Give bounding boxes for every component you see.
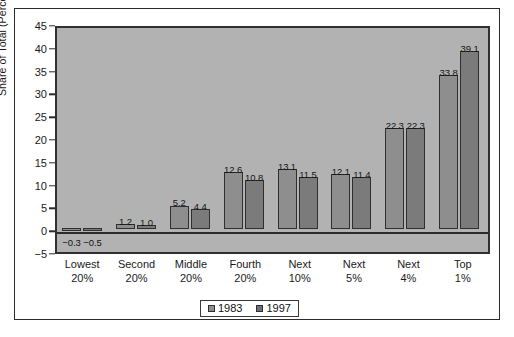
x-tick-label: Next5% [327,258,381,285]
x-tick-label-line: Next [327,258,381,272]
legend-item[interactable]: 1983 [208,302,242,314]
y-tick-label: 35 [3,66,55,78]
bar-1997-next-5- [352,177,371,229]
x-tick-label-line: 20% [218,272,272,286]
legend-label: 1997 [266,302,290,314]
y-tick-label: 10 [3,180,55,192]
x-axis-labels: Lowest20%Second20%Middle20%Fourth20%Next… [55,258,490,285]
bar-group: 33.839.1 [434,28,488,252]
x-tick-label: Middle20% [164,258,218,285]
bar-1997-fourth-20- [245,180,264,229]
x-tick-label: Next4% [381,258,435,285]
bar-1983-next-5- [331,174,350,229]
x-tick-label-line: Next [273,258,327,272]
x-tick-label-line: 20% [164,272,218,286]
x-tick-label-line: 1% [436,272,490,286]
x-tick-label-line: 10% [273,272,327,286]
bar-value-label: 39.1 [455,43,485,54]
x-tick-label-line: Second [109,258,163,272]
y-tick-label: 40 [3,43,55,55]
bar-value-label: 22.3 [401,120,431,131]
bar-1983-lowest-20- [62,228,81,231]
x-tick-label-line: 20% [109,272,163,286]
y-tick-label: 25 [3,111,55,123]
y-tick-label: 45 [3,20,55,32]
y-tick-label: 5 [3,202,55,214]
bar-group: 5.24.4 [165,28,219,252]
x-tick-label-line: Fourth [218,258,272,272]
bar-1983-top-1- [439,75,458,229]
bar-group: 22.322.3 [380,28,434,252]
x-tick-label: Top1% [436,258,490,285]
bar-group: 12.610.8 [219,28,273,252]
x-tick-label-line: Middle [164,258,218,272]
chart-page: Share of Total (Percent) 454035302520151… [0,0,514,337]
bar-1997-middle-20- [191,209,210,229]
bar-group: 12.111.4 [326,28,380,252]
bar-1997-next-10- [299,177,318,229]
x-tick-label-line: Lowest [55,258,109,272]
x-tick-label-line: Top [436,258,490,272]
y-tick-label: 15 [3,157,55,169]
bar-1997-lowest-20- [83,228,102,231]
y-tick-label: 30 [3,88,55,100]
y-tick-label: −5 [3,248,55,260]
bar-value-label: 11.5 [293,169,323,180]
bar-1983-next-4- [385,128,404,230]
y-tick-label: 20 [3,134,55,146]
bar-value-label: −0.5 [78,237,108,248]
chart-legend: 19831997 [200,300,299,317]
bar-group: −0.3−0.5 [57,28,111,252]
legend-label: 1983 [218,302,242,314]
bar-group: 13.111.5 [273,28,327,252]
legend-swatch-icon [256,305,263,312]
legend-item[interactable]: 1997 [256,302,290,314]
bar-value-label: 33.8 [434,67,464,78]
plot-area: −0.3−0.51.21.05.24.412.610.813.111.512.1… [55,26,490,254]
x-tick-label: Next10% [273,258,327,285]
bar-value-label: 10.8 [239,172,269,183]
x-tick-label-line: 4% [381,272,435,286]
x-tick-label-line: Next [381,258,435,272]
y-tick-label: 0 [3,225,55,237]
x-tick-label-line: 20% [55,272,109,286]
bar-1997-next-4- [406,128,425,230]
bar-value-label: 1.0 [131,217,161,228]
bar-group: 1.21.0 [111,28,165,252]
bar-1997-top-1- [460,51,479,229]
bar-groups: −0.3−0.51.21.05.24.412.610.813.111.512.1… [57,28,488,252]
bar-value-label: 4.4 [185,201,215,212]
bar-value-label: 11.4 [347,169,377,180]
x-tick-label: Lowest20% [55,258,109,285]
x-tick-label-line: 5% [327,272,381,286]
legend-swatch-icon [208,305,215,312]
x-tick-label: Fourth20% [218,258,272,285]
y-axis-ticks: 454035302520151050−5 [0,26,55,254]
x-tick-label: Second20% [109,258,163,285]
